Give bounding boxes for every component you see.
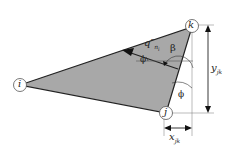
phi-label-bottom: ϕ bbox=[178, 90, 184, 99]
y-arrow-top bbox=[205, 25, 211, 32]
x-arrow-right bbox=[185, 125, 192, 131]
flux-label: q″ni bbox=[144, 38, 160, 52]
node-i-label: i bbox=[18, 79, 21, 89]
y-arrow-bottom bbox=[205, 106, 211, 113]
x-subscript: jk bbox=[175, 137, 181, 144]
y-subscript: jk bbox=[217, 68, 223, 75]
node-k-label: k bbox=[188, 20, 194, 30]
y-dimension-label: yjk bbox=[211, 63, 222, 75]
flux-q: q″ bbox=[144, 37, 154, 48]
flux-sub-i: i bbox=[158, 46, 160, 52]
x-dimension-label: xjk bbox=[169, 132, 180, 144]
phi-label-top: ϕ bbox=[140, 55, 146, 64]
triangle-element-diagram bbox=[0, 0, 234, 149]
node-j-label: j bbox=[164, 107, 167, 117]
beta-label: β bbox=[170, 43, 176, 53]
triangle-element bbox=[20, 27, 192, 113]
